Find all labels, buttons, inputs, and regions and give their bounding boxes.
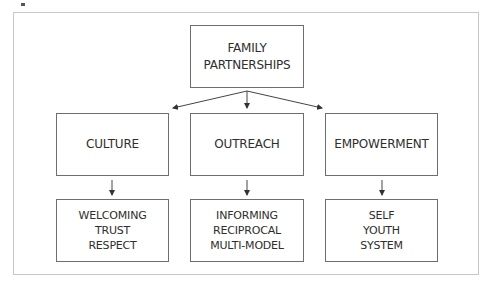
category-label: OUTREACH <box>214 137 279 152</box>
category-box-culture: CULTURE <box>56 113 169 176</box>
arrow-root-to-empowerment <box>247 91 322 108</box>
items-box-empowerment: SELF YOUTH SYSTEM <box>325 199 438 262</box>
root-label-line-2: PARTNERSHIPS <box>203 57 290 74</box>
category-label: EMPOWERMENT <box>334 137 428 152</box>
category-box-empowerment: EMPOWERMENT <box>325 113 438 176</box>
root-label-line-1: FAMILY <box>227 40 266 57</box>
item-self: SELF <box>369 208 395 223</box>
item-informing: INFORMING <box>216 208 278 223</box>
items-box-culture: WELCOMING TRUST RESPECT <box>56 199 169 262</box>
category-label: CULTURE <box>86 137 139 152</box>
item-multi-model: MULTI-MODEL <box>210 238 284 253</box>
item-welcoming: WELCOMING <box>79 208 147 223</box>
category-box-outreach: OUTREACH <box>190 113 304 176</box>
arrow-root-to-culture <box>173 91 247 108</box>
item-reciprocal: RECIPROCAL <box>213 223 281 238</box>
item-trust: TRUST <box>95 223 130 238</box>
item-youth: YOUTH <box>363 223 400 238</box>
root-box-family-partnerships: FAMILY PARTNERSHIPS <box>190 25 304 88</box>
items-box-outreach: INFORMING RECIPROCAL MULTI-MODEL <box>190 199 304 262</box>
item-system: SYSTEM <box>360 238 403 253</box>
item-respect: RESPECT <box>88 238 136 253</box>
